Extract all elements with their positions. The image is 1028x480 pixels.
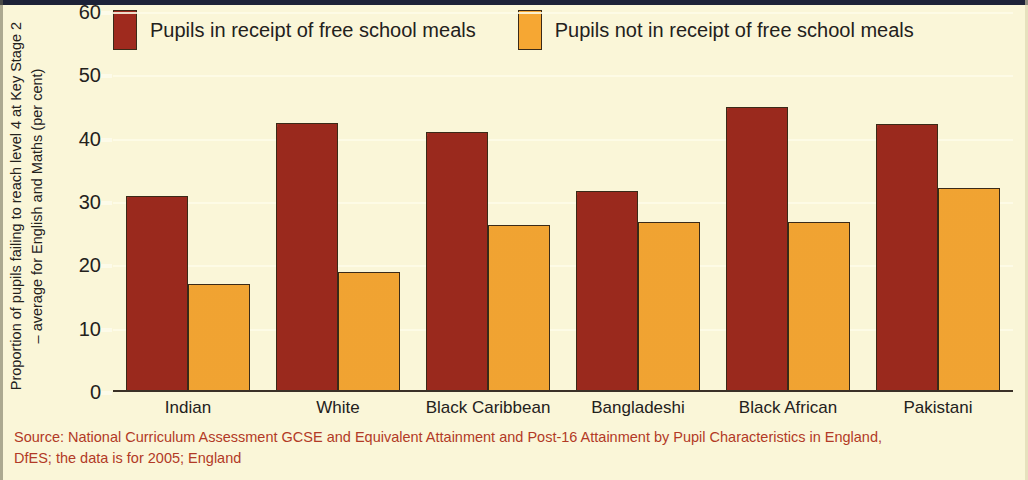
bar-group xyxy=(126,12,250,392)
y-axis-title-line-1: Proportion of pupils failing to reach le… xyxy=(8,22,24,390)
bar xyxy=(576,191,638,392)
bar xyxy=(788,222,850,392)
x-axis-category-label: Bangladeshi xyxy=(563,398,713,418)
y-axis-tick-label: 10 xyxy=(61,319,101,339)
y-axis-tick xyxy=(101,328,112,332)
source-note: Source: National Curriculum Assessment G… xyxy=(14,427,1009,469)
x-axis-line xyxy=(113,390,1013,392)
bar xyxy=(488,225,550,392)
x-axis-category-label: Black African xyxy=(713,398,863,418)
y-axis-tick-labels: 0102030405060 xyxy=(55,12,101,392)
y-axis-tick-label: 0 xyxy=(61,382,101,402)
x-axis-category-label: Black Caribbean xyxy=(413,398,563,418)
bar-group xyxy=(576,12,700,392)
x-axis-category-label: White xyxy=(263,398,413,418)
bar xyxy=(188,284,250,392)
y-axis-title: Proportion of pupils failing to reach le… xyxy=(6,6,48,406)
page-top-band xyxy=(0,0,1028,5)
bar-group xyxy=(426,12,550,392)
y-axis-tick-label: 40 xyxy=(61,129,101,149)
x-axis-category-label: Indian xyxy=(113,398,263,418)
y-axis-tick-label: 20 xyxy=(61,255,101,275)
y-axis-title-line-2: – average for English and Maths (per cen… xyxy=(27,6,48,406)
y-axis-tick xyxy=(101,74,112,78)
source-note-line-1: Source: National Curriculum Assessment G… xyxy=(14,429,882,445)
bar xyxy=(338,272,400,392)
y-axis-tick-label: 30 xyxy=(61,192,101,212)
bar xyxy=(938,188,1000,392)
bar-group xyxy=(726,12,850,392)
bar-group xyxy=(276,12,400,392)
bar-group xyxy=(876,12,1000,392)
bar xyxy=(426,132,488,392)
y-axis-tick xyxy=(101,11,112,15)
bar xyxy=(276,123,338,392)
x-axis-category-label: Pakistani xyxy=(863,398,1013,418)
y-axis-tick xyxy=(101,264,112,268)
bar xyxy=(126,196,188,392)
y-axis-tick xyxy=(101,391,112,395)
y-axis-tick xyxy=(101,201,112,205)
bar xyxy=(726,107,788,392)
y-axis-tick-label: 50 xyxy=(61,65,101,85)
bar xyxy=(638,222,700,392)
y-axis-tick-label: 60 xyxy=(61,2,101,22)
chart-figure: Proportion of pupils failing to reach le… xyxy=(0,0,1028,480)
source-note-line-2: DfES; the data is for 2005; England xyxy=(14,448,1009,469)
bar xyxy=(876,124,938,392)
y-axis-title-wrap: Proportion of pupils failing to reach le… xyxy=(0,0,56,420)
plot-area: IndianWhiteBlack CaribbeanBangladeshiBla… xyxy=(113,12,1013,392)
y-axis-tick xyxy=(101,138,112,142)
